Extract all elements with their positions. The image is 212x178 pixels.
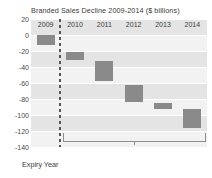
x-axis-caption: Expiry Year	[22, 160, 58, 169]
gridline	[31, 51, 207, 52]
bar-2012	[125, 85, 143, 102]
background-band	[31, 83, 207, 99]
plot-area: 200920102011201220132014 $92 billion	[31, 19, 207, 147]
gridline	[31, 115, 207, 116]
y-tick-label: -60	[1, 80, 29, 87]
bar-2014	[183, 109, 201, 128]
y-tick-label: -140	[1, 144, 29, 151]
expiry-divider-icon	[59, 19, 61, 147]
y-tick-label: 20	[1, 16, 29, 23]
gridline	[31, 99, 207, 100]
x-tick-label-2011: 2011	[97, 21, 112, 28]
bar-2011	[95, 61, 113, 81]
y-tick-label: -120	[1, 128, 29, 135]
y-axis: 200-20-40-60-80-100-120-140	[0, 19, 29, 147]
gridline	[31, 19, 207, 20]
background-band	[31, 19, 207, 35]
gridline	[31, 67, 207, 68]
bar-2009	[37, 35, 55, 45]
total-bracket-label: $92 billion	[118, 146, 150, 147]
gridline	[31, 35, 207, 36]
y-tick-label: -80	[1, 96, 29, 103]
total-bracket	[63, 133, 206, 142]
x-tick-label-2013: 2013	[155, 21, 171, 28]
x-tick-label-2014: 2014	[185, 21, 201, 28]
x-tick-label-2012: 2012	[126, 21, 142, 28]
x-tick-label-2009: 2009	[38, 21, 54, 28]
y-tick-label: -100	[1, 112, 29, 119]
bar-2013	[154, 103, 172, 109]
gridline	[31, 83, 207, 84]
background-band	[31, 115, 207, 131]
background-band	[31, 51, 207, 67]
y-tick-label: 0	[1, 32, 29, 39]
chart-title: Branded Sales Decline 2009-2014 ($ billi…	[31, 6, 180, 15]
y-tick-label: -20	[1, 48, 29, 55]
bar-2010	[66, 52, 84, 60]
x-tick-label-2010: 2010	[67, 21, 83, 28]
total-bracket-tick	[134, 141, 135, 145]
chart-container: Branded Sales Decline 2009-2014 ($ billi…	[0, 0, 212, 178]
gridline	[31, 131, 207, 132]
y-tick-label: -40	[1, 64, 29, 71]
